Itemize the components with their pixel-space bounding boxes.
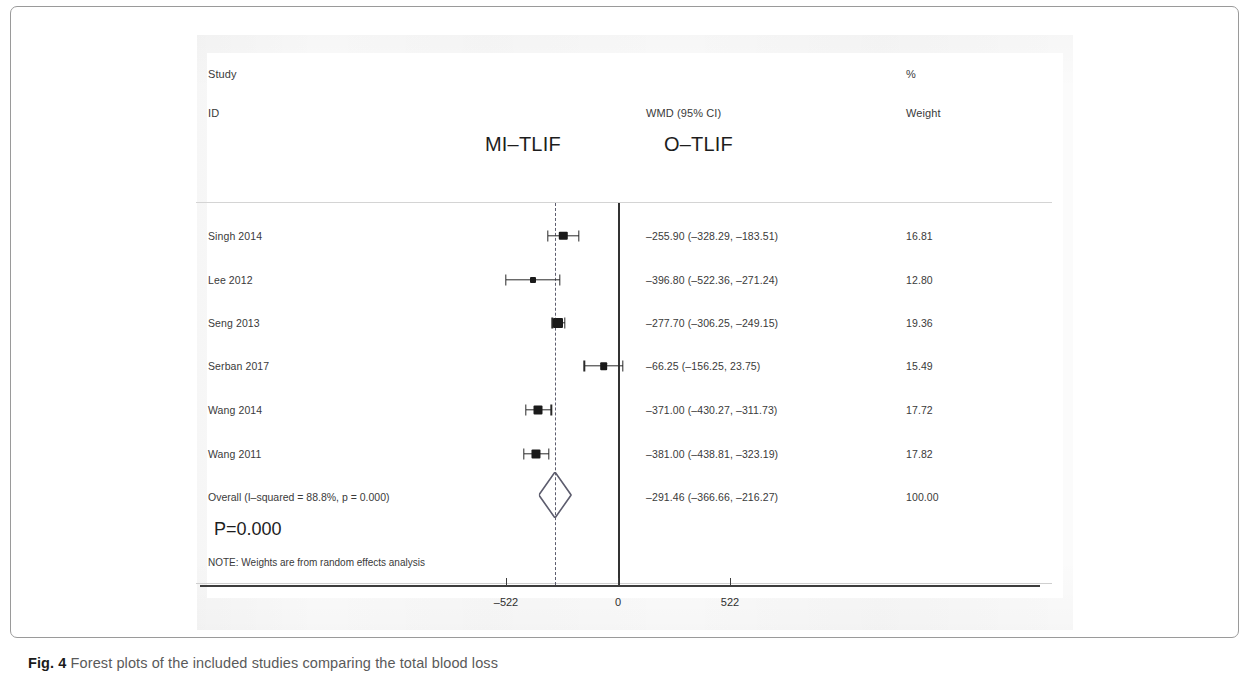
study-label: Serban 2017 [208,360,269,372]
confidence-interval-cap [548,449,549,460]
confidence-interval-cap [505,275,506,286]
confidence-interval-cap [564,318,565,329]
x-axis-tick [618,578,619,586]
study-weight-text: 12.80 [906,274,933,286]
confidence-interval-cap [525,405,526,416]
study-label: Singh 2014 [208,230,262,242]
summary-weight-text: 100.00 [906,491,939,503]
overall-label: Overall (I–squared = 88.8%, p = 0.000) [208,491,390,503]
column-header-weight: Weight [906,107,941,119]
forest-plot: Study ID % Weight WMD (95% CI) MI–TLIF O… [0,0,1247,638]
confidence-interval-cap [550,405,551,416]
study-label: Lee 2012 [208,274,253,286]
x-axis-tick-label: –522 [494,596,518,608]
x-axis-tick [730,578,731,586]
study-label: Wang 2011 [208,448,261,460]
x-axis-tick-label: 0 [615,596,621,608]
study-effect-text: –371.00 (–430.27, –311.73) [646,404,777,416]
column-header-effect: WMD (95% CI) [646,107,721,119]
study-weight-text: 17.82 [906,448,933,460]
effect-point-marker [534,406,543,415]
summary-diamond [539,472,571,522]
column-header-study: Study [208,68,237,80]
study-weight-text: 15.49 [906,360,933,372]
confidence-interval-cap [622,361,623,372]
caption-body: Forest plots of the included studies com… [71,655,498,671]
study-label: Seng 2013 [208,317,260,329]
effect-point-marker [559,232,567,240]
study-effect-text: –396.80 (–522.36, –271.24) [646,274,778,286]
effect-point-marker [553,318,563,328]
pooled-estimate-line [555,203,556,585]
header-divider [196,202,1052,203]
caption-figure-number: Fig. 4 [28,655,66,671]
confidence-interval-cap [547,231,548,242]
column-header-percent: % [906,68,916,80]
weights-note: NOTE: Weights are from random effects an… [208,557,425,568]
study-weight-text: 17.72 [906,404,933,416]
x-axis-line [200,585,1040,587]
x-axis-tick-label: 522 [721,596,739,608]
figure-caption: Fig. 4 Forest plots of the included stud… [28,655,498,671]
confidence-interval-cap [578,231,579,242]
study-effect-text: –277.70 (–306.25, –249.15) [646,317,778,329]
group-label-left: MI–TLIF [485,133,561,156]
overall-pvalue: P=0.000 [214,519,282,540]
study-weight-text: 19.36 [906,317,933,329]
footer-divider [196,583,1052,584]
confidence-interval-cap [584,361,585,372]
column-header-id: ID [208,107,219,119]
study-weight-text: 16.81 [906,230,933,242]
effect-point-marker [530,277,536,283]
study-label: Wang 2014 [208,404,262,416]
effect-point-marker [532,449,541,458]
study-effect-text: –381.00 (–438.81, –323.19) [646,448,778,460]
effect-point-marker [600,362,608,370]
summary-effect-text: –291.46 (–366.66, –216.27) [646,491,778,503]
study-effect-text: –66.25 (–156.25, 23.75) [646,360,760,372]
confidence-interval-cap [559,275,560,286]
x-axis-tick [506,578,507,586]
study-effect-text: –255.90 (–328.29, –183.51) [646,230,778,242]
group-label-right: O–TLIF [664,133,733,156]
null-effect-line [618,203,620,585]
confidence-interval-cap [523,449,524,460]
